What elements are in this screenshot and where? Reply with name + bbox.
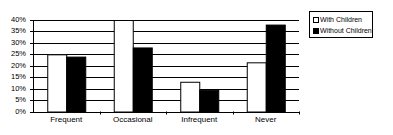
- y-tick-label: 25%: [0, 50, 26, 58]
- bar-with-children: [48, 55, 67, 112]
- y-tick-label: 40%: [0, 16, 26, 24]
- x-category-label: Infrequent: [166, 115, 232, 124]
- bar-without-children: [67, 57, 86, 112]
- bar-with-children: [114, 21, 133, 113]
- legend-swatch-white: [313, 17, 319, 23]
- legend-label: Without Children: [320, 27, 372, 34]
- y-tick-label: 20%: [0, 62, 26, 70]
- legend: With Children Without Children: [309, 11, 373, 38]
- x-category-label: Occasional: [100, 115, 166, 124]
- bar-without-children: [133, 48, 152, 112]
- y-tick-label: 0%: [0, 108, 26, 116]
- x-category-label: Never: [233, 115, 299, 124]
- legend-item-with-children: With Children: [313, 15, 362, 24]
- bar-with-children: [247, 63, 266, 112]
- y-tick-label: 30%: [0, 39, 26, 47]
- y-tick-label: 15%: [0, 73, 26, 81]
- bar-with-children: [181, 82, 200, 112]
- x-category-label: Frequent: [33, 115, 99, 124]
- y-tick-label: 5%: [0, 96, 26, 104]
- y-tick-label: 10%: [0, 85, 26, 93]
- bar-chart: 0%5%10%15%20%25%30%35%40% FrequentOccasi…: [0, 0, 393, 135]
- bar-without-children: [200, 90, 219, 112]
- legend-item-without-children: Without Children: [313, 26, 372, 35]
- legend-label: With Children: [320, 16, 362, 23]
- bar-without-children: [266, 25, 285, 112]
- y-tick-label: 35%: [0, 27, 26, 35]
- legend-swatch-black: [313, 28, 319, 34]
